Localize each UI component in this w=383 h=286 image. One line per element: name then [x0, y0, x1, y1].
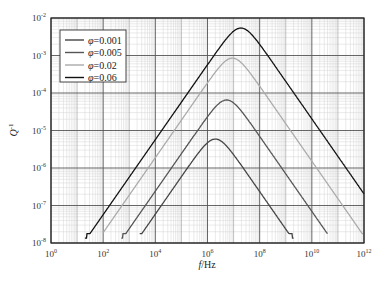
- y-tick-label: 10-3: [32, 50, 46, 61]
- attenuation-chart: 10010210410610810101012 10-210-310-410-5…: [0, 0, 383, 286]
- series-line-0: [140, 139, 294, 238]
- x-tick-label: 104: [149, 248, 161, 259]
- legend: φ=0.001φ=0.005φ=0.02φ=0.06: [60, 30, 126, 83]
- x-tick-label: 1010: [304, 248, 319, 259]
- svg-text:Q-1: Q-1: [7, 123, 19, 137]
- legend-label: φ=0.06: [88, 72, 117, 83]
- x-tick-label: 106: [202, 248, 214, 259]
- y-tick-label: 10-5: [32, 125, 46, 136]
- x-axis-ticks: 10010210410610810101012: [45, 248, 372, 259]
- y-tick-label: 10-2: [32, 12, 46, 23]
- x-axis-label: f/Hz: [198, 259, 216, 270]
- y-tick-label: 10-4: [32, 87, 46, 98]
- y-axis-label: Q-1: [7, 123, 19, 137]
- y-axis-ticks: 10-210-310-410-510-610-710-8: [32, 12, 46, 248]
- y-tick-label: 10-6: [32, 162, 46, 173]
- x-tick-label: 102: [97, 248, 109, 259]
- x-tick-label: 108: [254, 248, 266, 259]
- x-tick-label: 1012: [357, 248, 372, 259]
- legend-label: φ=0.001: [88, 35, 122, 46]
- x-tick-label: 100: [45, 248, 57, 259]
- y-tick-label: 10-7: [32, 200, 46, 211]
- legend-label: φ=0.005: [88, 47, 122, 58]
- legend-label: φ=0.02: [88, 60, 117, 71]
- y-tick-label: 10-8: [32, 237, 46, 248]
